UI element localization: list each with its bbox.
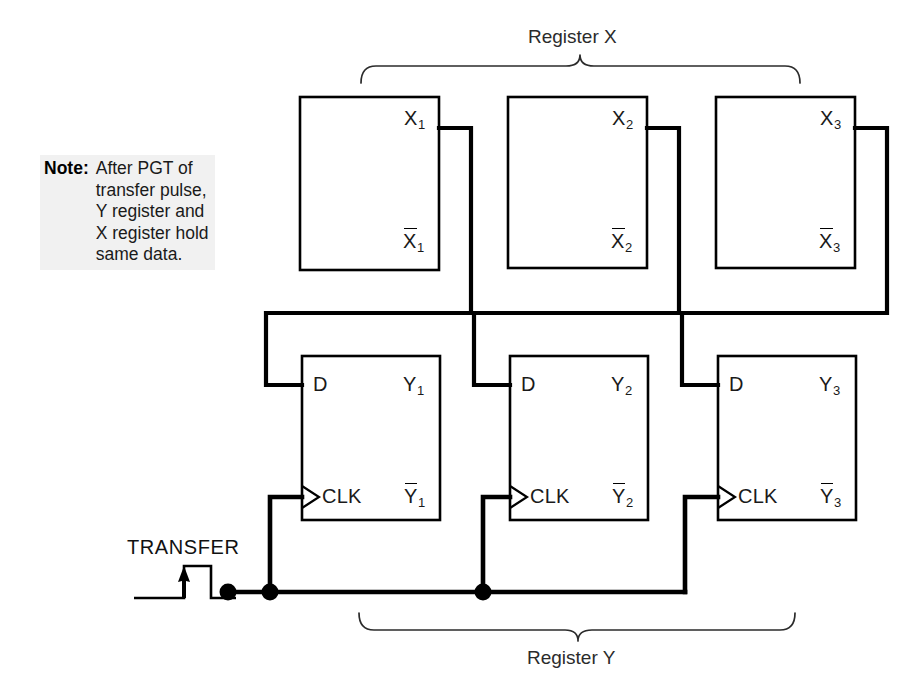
pin-y1-q-text: Y (403, 373, 417, 395)
overbar-y2 (613, 483, 625, 485)
pin-x3-q-sub: 3 (834, 117, 841, 132)
pin-label-x3-q: X3 (820, 108, 841, 128)
pin-label-x1-qbar: X1 (403, 231, 424, 251)
pin-label-y2-d: D (521, 374, 536, 394)
note-body: After PGT of transfer pulse, Y register … (96, 158, 209, 266)
pin-y2-q-sub: 2 (625, 383, 632, 398)
pin-y1-qbar-text: Y (404, 485, 418, 507)
pin-y3-qbar-sub: 3 (834, 495, 841, 510)
pin-x2-qbar-text: X (611, 230, 625, 252)
pin-x2-q-sub: 2 (626, 117, 633, 132)
overbar-x2 (612, 228, 625, 230)
pin-x1-q-sub: 1 (418, 117, 425, 132)
note-line-1: After PGT of (96, 158, 209, 180)
pin-label-y1-clk: CLK (322, 486, 362, 506)
pgt-arrow-icon (178, 566, 190, 598)
pin-label-y3-clk: CLK (738, 486, 778, 506)
pin-label-y1-q: Y1 (403, 374, 424, 394)
pin-y3-q-text: Y (819, 373, 833, 395)
note-key-label: Note: (44, 158, 96, 180)
wire-clk-to-y2 (483, 497, 510, 592)
overbar-x1 (404, 228, 417, 230)
pin-label-x3-qbar: X3 (819, 231, 840, 251)
pin-label-y3-qbar: Y3 (820, 486, 841, 506)
pin-x2-q-text: X (612, 107, 626, 129)
pin-y1-qbar-sub: 1 (418, 495, 425, 510)
overbar-y1 (405, 483, 417, 485)
pin-label-x1-q: X1 (404, 108, 425, 128)
pin-x1-qbar-sub: 1 (417, 240, 424, 255)
register-x-brace (361, 55, 800, 83)
pin-label-y2-q: Y2 (611, 374, 632, 394)
pin-label-y3-d: D (729, 374, 744, 394)
note-line-5: same data. (96, 244, 209, 266)
circuit-schematic (0, 0, 916, 694)
pin-y2-q-text: Y (611, 373, 625, 395)
pin-x3-qbar-text: X (819, 230, 833, 252)
note-callout: Note: After PGT of transfer pulse, Y reg… (40, 155, 215, 270)
pin-y3-qbar-text: Y (820, 485, 834, 507)
pin-x1-qbar-text: X (403, 230, 417, 252)
pin-y2-qbar-sub: 2 (626, 495, 633, 510)
register-x-label: Register X (528, 27, 617, 46)
register-y-label: Register Y (527, 648, 615, 667)
pin-label-y2-clk: CLK (530, 486, 570, 506)
note-line-3: Y register and (96, 201, 209, 223)
pin-label-y2-qbar: Y2 (612, 486, 633, 506)
pin-y1-q-sub: 1 (417, 383, 424, 398)
pin-label-x2-qbar: X2 (611, 231, 632, 251)
transfer-signal-label: TRANSFER (127, 537, 240, 557)
pin-y2-qbar-text: Y (612, 485, 626, 507)
pin-label-y1-d: D (313, 374, 328, 394)
wire-clk-to-y1 (270, 497, 302, 592)
register-y-brace (359, 613, 795, 641)
diagram-canvas: Register X Register Y X1 X1 X2 X2 X3 X3 … (0, 0, 916, 694)
pin-label-y1-qbar: Y1 (404, 486, 425, 506)
overbar-x3 (820, 228, 833, 230)
note-line-2: transfer pulse, (96, 180, 209, 202)
pin-x1-q-text: X (404, 107, 418, 129)
note-line-4: X register hold (96, 223, 209, 245)
wire-clk-to-y3 (685, 497, 718, 592)
pin-y3-q-sub: 3 (833, 383, 840, 398)
pin-label-y3-q: Y3 (819, 374, 840, 394)
bus-junction-dot-y2 (475, 584, 492, 601)
pin-label-x2-q: X2 (612, 108, 633, 128)
pin-x3-qbar-sub: 3 (833, 240, 840, 255)
overbar-y3 (821, 483, 833, 485)
pin-x2-qbar-sub: 2 (625, 240, 632, 255)
pin-x3-q-text: X (820, 107, 834, 129)
bus-junction-dot-y1 (262, 584, 279, 601)
